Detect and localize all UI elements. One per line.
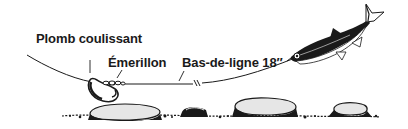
line-break-icon [194, 80, 200, 86]
main-line [27, 55, 92, 82]
rock-icon [180, 107, 208, 117]
rock-icon [232, 98, 298, 117]
swivel-icon [103, 81, 125, 85]
leader-label: Bas-de-ligne 18″ [182, 56, 283, 69]
fishing-rig-diagram: Plomb coulissant Émerillon Bas-de-ligne … [0, 0, 408, 129]
sinker-label: Plomb coulissant [36, 32, 142, 45]
leader-pointer [179, 71, 184, 81]
swivel-label: Émerillon [108, 56, 166, 69]
bait-fish-icon [287, 4, 384, 64]
rock-icon [88, 104, 162, 121]
rock-icon [328, 103, 372, 117]
swivel-pointer [117, 70, 122, 78]
